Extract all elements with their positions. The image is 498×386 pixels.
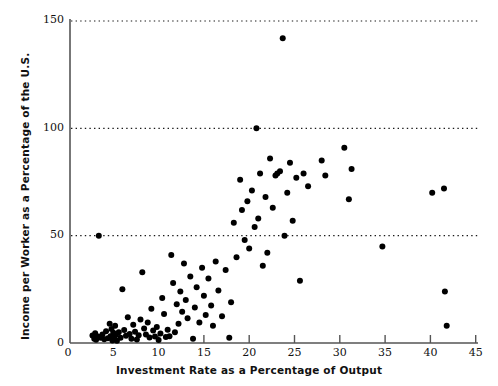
- x-axis-title: Investment Rate as a Percentage of Outpu…: [0, 364, 498, 376]
- data-point: [137, 316, 143, 322]
- data-point: [165, 327, 171, 333]
- y-tick-label-50: 50: [30, 228, 64, 241]
- data-point: [346, 196, 352, 202]
- data-point: [379, 243, 385, 249]
- x-tick-label-20: 20: [229, 346, 269, 359]
- data-point: [267, 155, 273, 161]
- data-point: [147, 334, 153, 340]
- data-point: [322, 173, 328, 179]
- plot-canvas: [0, 0, 498, 386]
- data-point: [237, 177, 243, 183]
- gridlines-group: [71, 21, 478, 236]
- data-point: [185, 315, 191, 321]
- data-point: [141, 325, 147, 331]
- data-point: [242, 237, 248, 243]
- data-point: [128, 336, 134, 342]
- data-point: [145, 320, 151, 326]
- data-point: [215, 287, 221, 293]
- data-point: [179, 309, 185, 315]
- data-point: [154, 324, 160, 330]
- y-tick-label-100: 100: [30, 121, 64, 134]
- data-point: [429, 190, 435, 196]
- data-point: [159, 295, 165, 301]
- data-point: [192, 305, 198, 311]
- data-point: [194, 284, 200, 290]
- data-point: [118, 335, 124, 341]
- data-point: [199, 265, 205, 271]
- x-tick-label-45: 45: [456, 346, 496, 359]
- data-point: [125, 314, 131, 320]
- data-point: [213, 258, 219, 264]
- data-point: [121, 327, 127, 333]
- y-tick-label-150: 150: [30, 13, 64, 26]
- data-point: [203, 312, 209, 318]
- data-point: [136, 332, 142, 338]
- x-tick-label-30: 30: [320, 346, 360, 359]
- data-point: [174, 301, 180, 307]
- data-point: [441, 185, 447, 191]
- data-point: [116, 329, 122, 335]
- data-point: [270, 205, 276, 211]
- data-point: [442, 288, 448, 294]
- data-point: [301, 170, 307, 176]
- data-point: [263, 194, 269, 200]
- data-point: [190, 336, 196, 342]
- axes-group: [70, 19, 478, 343]
- data-point: [257, 170, 263, 176]
- data-point: [183, 297, 189, 303]
- data-point: [156, 337, 162, 343]
- x-tick-label-5: 5: [93, 346, 133, 359]
- data-point: [208, 302, 214, 308]
- data-point: [244, 198, 250, 204]
- data-point: [319, 158, 325, 164]
- data-point: [226, 335, 232, 341]
- data-point: [234, 254, 240, 260]
- data-point: [293, 175, 299, 181]
- y-axis-title: Income per Worker as a Percentage of the…: [19, 53, 31, 340]
- data-point: [107, 321, 113, 327]
- data-point: [280, 35, 286, 41]
- y-axis-title-container: Income per Worker as a Percentage of the…: [0, 0, 28, 360]
- data-point: [297, 278, 303, 284]
- data-point: [246, 246, 252, 252]
- x-tick-label-25: 25: [275, 346, 315, 359]
- data-point: [305, 183, 311, 189]
- data-point: [168, 252, 174, 258]
- data-point: [148, 306, 154, 312]
- data-point: [157, 331, 163, 337]
- data-point: [205, 276, 211, 282]
- data-point: [290, 218, 296, 224]
- data-point: [349, 166, 355, 172]
- data-point: [253, 125, 259, 131]
- data-point: [255, 215, 261, 221]
- data-point: [172, 329, 178, 335]
- data-point: [130, 322, 136, 328]
- data-point: [170, 280, 176, 286]
- data-point: [112, 323, 118, 329]
- data-point: [219, 313, 225, 319]
- data-point: [201, 293, 207, 299]
- data-point: [277, 168, 283, 174]
- x-tick-label-0: 0: [48, 346, 88, 359]
- data-point: [96, 233, 102, 239]
- scatter-plot-figure: Income per Worker as a Percentage of the…: [0, 0, 498, 386]
- data-point: [231, 220, 237, 226]
- data-point: [103, 328, 109, 334]
- data-point: [282, 233, 288, 239]
- data-point: [341, 145, 347, 151]
- x-tick-label-35: 35: [365, 346, 405, 359]
- data-point: [161, 311, 167, 317]
- data-point: [176, 321, 182, 327]
- data-point: [260, 263, 266, 269]
- data-point: [181, 261, 187, 267]
- x-tick-label-40: 40: [410, 346, 450, 359]
- data-point: [210, 323, 216, 329]
- data-point: [177, 288, 183, 294]
- x-tick-label-15: 15: [184, 346, 224, 359]
- data-point: [239, 207, 245, 213]
- data-point: [444, 323, 450, 329]
- data-point: [166, 333, 172, 339]
- data-point: [284, 190, 290, 196]
- data-point: [196, 320, 202, 326]
- data-points-group: [89, 35, 449, 344]
